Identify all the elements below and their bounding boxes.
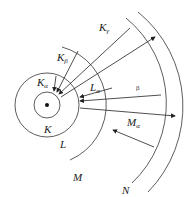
k-outer-arrow (61, 37, 155, 97)
m-alpha-arrow (113, 130, 154, 147)
label-l: L (59, 138, 66, 150)
label-k-alpha: Kα (36, 76, 48, 90)
label-k-gamma: Kγ (98, 21, 109, 35)
outer-shell-arc (138, 12, 183, 192)
label-k-beta: Kβ (56, 51, 68, 65)
label-beta: β (136, 84, 140, 92)
l-outer-arrow (80, 108, 175, 116)
label-n: N (121, 184, 130, 196)
k-alpha-arrow (54, 76, 56, 91)
label-l-alpha: Lα (89, 81, 100, 95)
nucleus-dot (45, 103, 49, 107)
m-shell-arc (62, 47, 106, 160)
label-k: K (43, 123, 52, 135)
label-m: M (72, 171, 83, 183)
label-m-alpha: Mα (126, 116, 140, 130)
beta-arrow (80, 95, 161, 101)
atomic-shell-diagram: K L M N Kα Kβ Kγ Lα Mα β (0, 0, 188, 197)
